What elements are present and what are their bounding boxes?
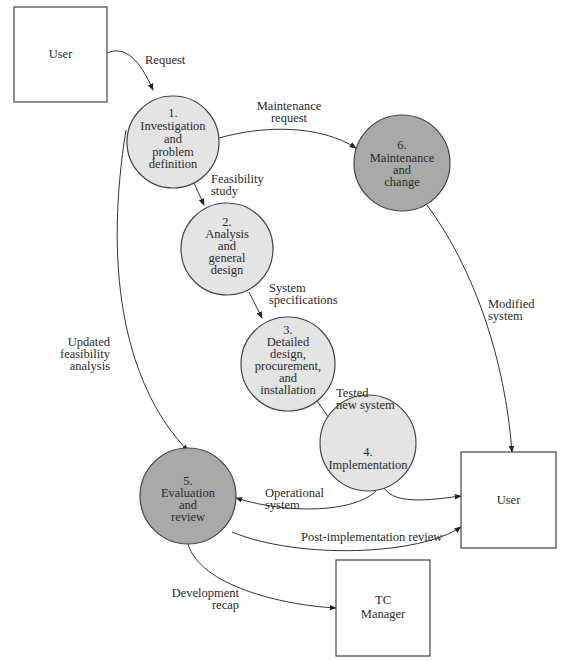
process-1-number: 1. <box>168 106 177 120</box>
flow-maintenance-request-arrow <box>219 129 356 148</box>
flow-system-specifications-arrow <box>249 292 262 318</box>
entity-user-right-label: User <box>497 493 521 507</box>
flow-label-post-implementation-review: Post-implementation review <box>301 530 442 544</box>
process-1-line: Investigation <box>140 119 206 133</box>
flow-label-updated-feasibility: analysis <box>70 359 110 373</box>
process-2-line: design <box>211 263 244 277</box>
entity-user-top-label: User <box>49 47 73 61</box>
entity-tc-manager[interactable]: TC Manager <box>336 560 430 656</box>
entity-tc-manager-label-line1: TC <box>375 593 391 607</box>
entity-user-right[interactable]: User <box>461 452 556 548</box>
entity-user-top[interactable]: User <box>14 7 107 102</box>
process-2-analysis[interactable]: 2. Analysis and general design <box>181 203 273 295</box>
entity-tc-manager-label-line2: Manager <box>361 607 406 621</box>
process-1-line: and <box>164 132 183 146</box>
flow-feasibility-study-arrow <box>194 183 204 205</box>
flow-label-system-specifications: specifications <box>269 293 338 307</box>
process-6-maintenance[interactable]: 6. Maintenance and change <box>354 115 450 211</box>
flow-label-request: Request <box>145 53 186 67</box>
process-6-number: 6. <box>397 138 406 152</box>
process-4-line: Implementation <box>328 458 408 472</box>
data-flow-diagram: User User TC Manager 1. Investigation an… <box>0 0 562 661</box>
flow-label-feasibility-study: study <box>211 184 239 198</box>
flow-label-operational-system: system <box>265 498 300 512</box>
flow-label-maintenance-request: request <box>271 111 308 125</box>
flow-modified-system-arrow <box>427 205 512 452</box>
process-5-evaluation[interactable]: 5. Evaluation and review <box>140 448 236 544</box>
flow-label-tested-new-system: new system <box>336 398 395 412</box>
process-3-detailed-design[interactable]: 3. Detailed design, procurement, and ins… <box>241 317 335 411</box>
process-1-investigation[interactable]: 1. Investigation and problem definition <box>127 96 219 188</box>
process-3-line: installation <box>260 383 316 397</box>
process-4-number: 4. <box>363 445 372 459</box>
process-5-line: review <box>171 510 205 524</box>
process-6-line: change <box>384 175 420 189</box>
process-1-line: definition <box>149 157 198 171</box>
flow-label-development-recap: recap <box>212 598 239 612</box>
flow-label-modified-system: system <box>488 309 523 323</box>
flow-implementation-to-user-arrow <box>384 488 461 500</box>
